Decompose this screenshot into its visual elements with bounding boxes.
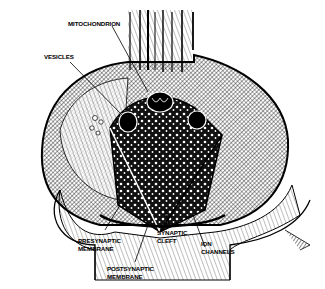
label-ion-channels: ION CHANNELS bbox=[201, 240, 235, 256]
label-presynaptic-membrane: PRESYNAPTIC MEMBRANE bbox=[78, 237, 121, 253]
synapse-illustration: MITOCHONDRION VESICLES PRESYNAPTIC MEMBR… bbox=[0, 0, 325, 289]
mitochondrion-shape bbox=[147, 92, 173, 112]
label-mitochondrion: MITOCHONDRION bbox=[68, 20, 120, 28]
label-postsynaptic-membrane: POSTSYNAPTIC MEMBRANE bbox=[107, 265, 154, 281]
label-synaptic-cleft: SYNAPTIC CLEFT bbox=[157, 229, 188, 245]
synapse-drawing bbox=[0, 0, 325, 289]
label-vesicles: VESICLES bbox=[44, 53, 74, 61]
